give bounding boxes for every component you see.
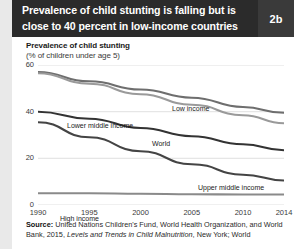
source-suffix: , New York; World	[193, 230, 251, 239]
series-label-low-income: Low income	[172, 105, 209, 112]
figure-title: Prevalence of child stunting is falling …	[22, 3, 258, 34]
x-tick-label: 2000	[126, 208, 156, 217]
figure-badge-container: 2b	[258, 0, 294, 37]
figure-container: Prevalence of child stunting is falling …	[0, 0, 294, 249]
chart-panel: Prevalence of child stunting (% of child…	[12, 37, 294, 249]
page-gutter	[0, 0, 12, 249]
x-tick-label: 1990	[23, 208, 53, 217]
chart-axis-subtitle: (% of children under age 5)	[26, 51, 120, 60]
y-tick-label: 20	[18, 153, 34, 162]
series-label-upper-middle-income: Upper middle income	[198, 184, 264, 191]
x-tick-label: 2010	[228, 208, 258, 217]
series-label-world: World	[152, 140, 170, 147]
y-tick-label: 60	[18, 60, 34, 69]
y-tick-label: 40	[18, 107, 34, 116]
x-tick-label: 2014	[269, 208, 294, 217]
figure-header: Prevalence of child stunting is falling …	[12, 0, 294, 37]
series-label-lower-middle-income: Lower middle income	[67, 122, 133, 129]
x-tick-label: 2005	[177, 208, 207, 217]
source-note: Source: United Nations Children's Fund, …	[26, 220, 294, 239]
figure-badge: 2b	[258, 0, 294, 37]
source-prefix: Source:	[26, 220, 53, 229]
source-italic-title: Levels and Trends in Child Malnutrition	[67, 230, 193, 239]
chart-axis-title: Prevalence of child stunting	[26, 41, 130, 50]
